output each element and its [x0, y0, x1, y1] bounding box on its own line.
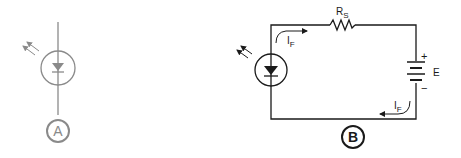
light-arrow-icon: [27, 42, 39, 51]
battery-minus: −: [421, 82, 427, 94]
battery-label: E: [433, 67, 440, 78]
figure-a: [23, 22, 75, 142]
wire-top-right: [355, 25, 416, 61]
diode-triangle-icon: [52, 63, 64, 71]
figure-b-label: B: [348, 129, 358, 145]
figure-b: [237, 20, 425, 148]
current-label-top: IF: [287, 35, 295, 49]
light-arrow-icon: [23, 46, 35, 55]
diode-triangle-icon: [264, 66, 278, 75]
resistor-label: RS: [336, 6, 349, 20]
diagram-canvas: A RS IF IF + − E B: [0, 0, 461, 158]
current-label-bottom: IF: [394, 100, 402, 114]
resistor-zigzag-icon: [330, 20, 355, 30]
wire-top-left: [271, 25, 330, 54]
light-arrow-icon: [241, 46, 252, 54]
figure-a-label: A: [53, 123, 63, 139]
light-arrow-icon: [237, 50, 248, 58]
battery-plus: +: [421, 50, 427, 62]
